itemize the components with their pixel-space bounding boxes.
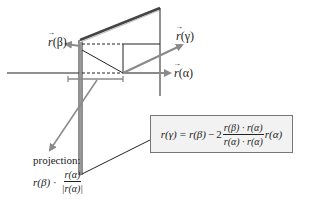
projection-title: projection:: [33, 154, 85, 166]
formula-minus: −: [208, 128, 214, 140]
formula-denominator: r(α) · r(α): [223, 135, 264, 147]
diagonal-line: [82, 50, 123, 73]
projection-dot: ·: [53, 176, 57, 188]
projection-denominator: |r(α)|: [61, 182, 84, 194]
label-arg: (γ): [181, 29, 194, 43]
formula-coefficient: 2: [216, 128, 222, 140]
formula-term1: r(β): [189, 128, 206, 140]
projection-fraction: r(α) |r(α)|: [61, 169, 84, 194]
label-arg: (α): [179, 66, 193, 80]
formula-fraction: r(β) · r(α) r(α) · r(α): [223, 122, 264, 147]
label-r-gamma: r(γ): [176, 30, 194, 42]
projection-expression: r(β) · r(α) |r(α)|: [33, 169, 85, 194]
formula-trailing: r(α): [265, 128, 282, 140]
projection-annotation: projection: r(β) · r(α) |r(α)|: [33, 154, 85, 194]
label-r-beta: r(β): [48, 36, 67, 48]
formula-numerator: r(β) · r(α): [223, 122, 264, 135]
vec-symbol: r: [48, 36, 53, 48]
reflection-formula-box: r(γ) = r(β) − 2 r(β) · r(α) r(α) · r(α) …: [150, 115, 293, 153]
label-r-alpha: r(α): [174, 67, 193, 79]
formula-equals: =: [180, 128, 186, 140]
vec-symbol: r: [174, 67, 179, 79]
vec-symbol: r: [176, 30, 181, 42]
formula-lhs: r(γ): [161, 128, 177, 140]
r-beta-arrow: [66, 44, 80, 46]
label-arg: (β): [53, 35, 67, 49]
projection-numerator: r(α): [64, 169, 82, 182]
projection-lhs: r(β): [33, 176, 50, 188]
mirror-plane: [79, 8, 160, 175]
projection-arrow: [50, 80, 97, 150]
